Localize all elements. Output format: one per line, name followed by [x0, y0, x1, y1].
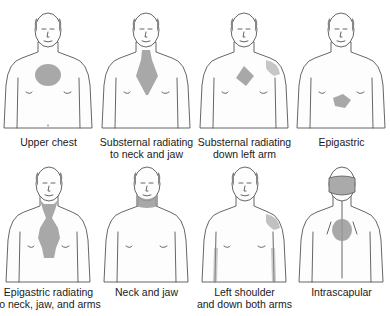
front-figure-icon: [196, 158, 293, 284]
panel-caption: Epigastric radiating to neck, jaw, and a…: [0, 286, 103, 310]
panel-substernal-neck-jaw: Substernal radiating to neck and jaw: [98, 0, 195, 158]
panel-caption: Left shoulder and down both arms: [190, 286, 299, 310]
front-figure-icon: [98, 158, 195, 284]
front-figure-icon: [0, 0, 97, 130]
caption-line1: Substernal radiating: [190, 136, 299, 148]
panel-caption: Neck and jaw: [92, 286, 201, 298]
pain-region-intrascapular: [332, 219, 352, 241]
panel-caption: Substernal radiating down left arm: [190, 136, 299, 160]
caption-line1: Upper chest: [0, 136, 103, 148]
front-figure-icon: [98, 0, 195, 130]
panel-upper-chest: Upper chest: [0, 0, 97, 158]
panel-epigastric: Epigastric: [293, 0, 390, 158]
panel-caption: Intrascapular: [287, 286, 390, 298]
panel-substernal-left-arm: Substernal radiating down left arm: [196, 0, 293, 158]
panel-caption: Epigastric: [287, 136, 390, 148]
front-figure-icon: [0, 158, 97, 284]
panel-epigastric-neck-jaw-arms: Epigastric radiating to neck, jaw, and a…: [0, 158, 97, 316]
panel-caption: Upper chest: [0, 136, 103, 148]
back-figure-icon: [293, 158, 390, 284]
caption-line1: Left shoulder: [190, 286, 299, 298]
panel-left-shoulder-both-arms: Left shoulder and down both arms: [196, 158, 293, 316]
front-figure-icon: [293, 0, 390, 130]
caption-line2: and down both arms: [190, 298, 299, 310]
caption-line1: Substernal radiating: [92, 136, 201, 148]
caption-line1: Neck and jaw: [92, 286, 201, 298]
panel-intrascapular: Intrascapular: [293, 158, 390, 316]
pain-region-upper-chest: [35, 64, 61, 86]
front-figure-icon: [196, 0, 293, 130]
caption-line1: Epigastric radiating: [0, 286, 103, 298]
caption-line2: to neck, jaw, and arms: [0, 298, 103, 310]
panel-caption: Substernal radiating to neck and jaw: [92, 136, 201, 160]
panel-neck-jaw: Neck and jaw: [98, 158, 195, 316]
caption-line1: Intrascapular: [287, 286, 390, 298]
caption-line1: Epigastric: [287, 136, 390, 148]
